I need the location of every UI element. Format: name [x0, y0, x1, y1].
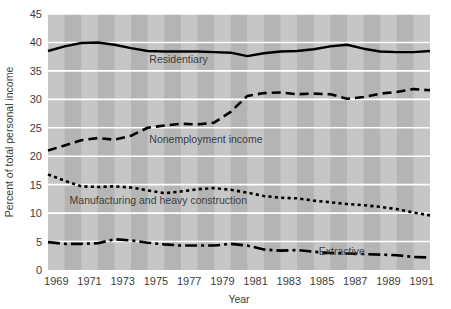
series-label-1: Nonemployment income — [149, 133, 262, 145]
x-tick-label: 1979 — [210, 275, 234, 287]
x-tick-label: 1981 — [243, 275, 267, 287]
x-tick-label: 1983 — [277, 275, 301, 287]
x-tick-label: 1969 — [44, 275, 68, 287]
y-tick-label: 5 — [36, 236, 42, 248]
year-band — [314, 14, 331, 270]
x-tick-label: 1973 — [110, 275, 134, 287]
x-tick-label: 1971 — [77, 275, 101, 287]
y-tick-label: 40 — [30, 36, 42, 48]
year-band — [48, 14, 65, 270]
line-chart: 051015202530354045 196919711973197519771… — [0, 0, 451, 309]
x-axis-title: Year — [228, 293, 250, 305]
x-tick-label: 1991 — [409, 275, 433, 287]
x-tick-label: 1989 — [376, 275, 400, 287]
series-label-0: Residentiary — [149, 53, 208, 65]
year-band — [114, 14, 131, 270]
y-tick-label: 15 — [30, 179, 42, 191]
x-tick-label: 1987 — [343, 275, 367, 287]
y-tick-label: 10 — [30, 207, 42, 219]
x-tick-label: 1975 — [144, 275, 168, 287]
chart-container: 051015202530354045 196919711973197519771… — [0, 0, 451, 309]
series-label-3: Extractive — [319, 245, 365, 257]
x-tick-label: 1977 — [177, 275, 201, 287]
y-tick-label: 0 — [36, 264, 42, 276]
y-tick-label: 35 — [30, 65, 42, 77]
y-axis-title: Percent of total personal income — [3, 67, 15, 218]
year-band — [347, 14, 364, 270]
y-tick-label: 30 — [30, 93, 42, 105]
year-band — [81, 14, 98, 270]
y-tick-label: 45 — [30, 8, 42, 20]
x-tick-label: 1985 — [310, 275, 334, 287]
y-tick-label: 25 — [30, 122, 42, 134]
y-tick-label: 20 — [30, 150, 42, 162]
series-label-2: Manufacturing and heavy construction — [70, 194, 248, 206]
